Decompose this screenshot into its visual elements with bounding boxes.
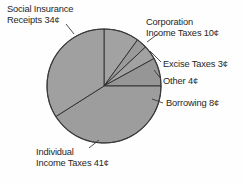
pie-slices <box>47 29 161 143</box>
label-excise-line1: Excise Taxes 3¢ <box>163 59 228 70</box>
leader-social-insurance <box>66 24 74 34</box>
label-borrowing: Borrowing 8¢ <box>166 98 219 109</box>
label-corporation-line2: Income Taxes 10¢ <box>146 28 219 39</box>
label-other: Other 4¢ <box>163 76 198 87</box>
label-social-insurance-receipts: Social Insurance Receipts 34¢ <box>7 4 73 25</box>
label-individual-income-taxes: Individual Income Taxes 41¢ <box>36 147 109 168</box>
label-corporation-line1: Corporation <box>146 17 219 28</box>
label-social-insurance-line1: Social Insurance <box>7 4 73 15</box>
label-other-line1: Other 4¢ <box>163 76 198 87</box>
label-excise-taxes: Excise Taxes 3¢ <box>163 59 228 70</box>
label-corporation-income-taxes: Corporation Income Taxes 10¢ <box>146 17 219 38</box>
pie-chart-figure: Social Insurance Receipts 34¢ Corporatio… <box>0 0 245 185</box>
label-social-insurance-line2: Receipts 34¢ <box>7 15 73 26</box>
label-borrowing-line1: Borrowing 8¢ <box>166 98 219 109</box>
label-individual-line2: Income Taxes 41¢ <box>36 158 109 169</box>
label-individual-line1: Individual <box>36 147 109 158</box>
